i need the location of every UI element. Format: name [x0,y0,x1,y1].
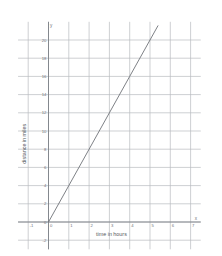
x-tick-label: 0 [50,223,53,228]
y-tick-label: -2 [43,238,47,243]
x-tick-label: 1 [70,223,73,228]
x-axis-title: time in hours [96,231,127,237]
x-tick-label: 4 [131,223,134,228]
distance-time-graph: -101234567 -202468101214161820 xy time i… [0,0,222,256]
y-tick-label: 14 [42,92,47,97]
series-distance [49,25,159,222]
x-tick-label: 2 [91,223,94,228]
chart-canvas: -101234567 -202468101214161820 xy time i… [0,0,222,256]
y-axis-title: distance in miles [21,124,27,164]
x-tick-label: -1 [30,223,34,228]
y-tick-label: 18 [42,56,47,61]
y-tick-label: 20 [42,38,47,43]
x-tick-label: 7 [192,223,195,228]
y-tick-labels: -202468101214161820 [42,38,47,243]
x-axis-letter: x [195,216,198,221]
data-line [49,25,159,222]
x-tick-label: 6 [172,223,175,228]
y-tick-label: 10 [42,129,47,134]
y-tick-label: 12 [42,110,47,115]
y-axis-letter: y [50,23,53,28]
axis-letters: xy [50,23,198,221]
y-tick-label: 16 [42,74,47,79]
x-tick-label: 5 [152,223,155,228]
x-tick-label: 3 [111,223,114,228]
